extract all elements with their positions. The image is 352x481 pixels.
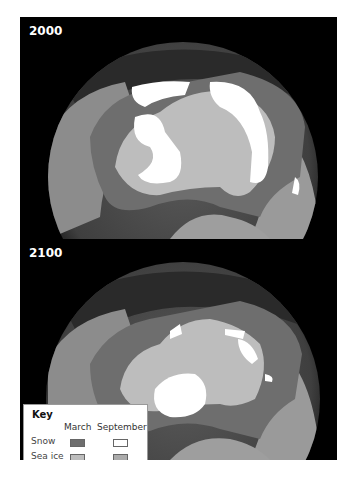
map-panel-2000: 2000: [20, 17, 337, 239]
swatch-snow-march: [70, 439, 85, 447]
swatch-sea-ice-march: [70, 454, 85, 460]
globe-2000: [20, 17, 337, 239]
key-row-snow: Snow: [31, 436, 55, 446]
key-title: Key: [32, 409, 53, 420]
key-row-sea-ice: Sea ice: [31, 451, 64, 460]
year-label: 2100: [29, 246, 62, 260]
year-label: 2000: [29, 24, 62, 38]
map-panel-2100: 2100 Key March September Snow Sea ice: [20, 239, 337, 460]
key-column-march: March: [64, 422, 91, 432]
key-column-september: September: [97, 422, 147, 432]
map-key: Key March September Snow Sea ice: [23, 404, 148, 460]
swatch-sea-ice-september: [113, 454, 128, 460]
swatch-snow-september: [113, 439, 128, 447]
